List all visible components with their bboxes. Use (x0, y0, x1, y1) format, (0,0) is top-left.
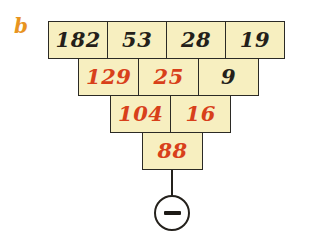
pyramid-cell[interactable]: 9 (198, 58, 260, 96)
pyramid-cell[interactable]: 129 (78, 58, 140, 96)
pyramid-row-2: 129 25 9 (78, 58, 259, 96)
pyramid-cell[interactable]: 53 (107, 21, 168, 59)
pyramid-cell[interactable]: 16 (170, 95, 232, 133)
pyramid-row-3: 104 16 (110, 95, 231, 133)
pyramid-cell[interactable]: 104 (110, 95, 172, 133)
pyramid-row-1: 182 53 28 19 (48, 21, 285, 59)
pyramid-cell[interactable]: 25 (138, 58, 200, 96)
pyramid-cell[interactable]: 19 (225, 21, 286, 59)
pyramid-cell[interactable]: 182 (48, 21, 109, 59)
pyramid-cell[interactable]: 28 (166, 21, 227, 59)
pyramid-cell[interactable]: 88 (142, 132, 203, 170)
minus-sign-icon (164, 211, 181, 216)
connector-line (171, 170, 173, 196)
pyramid-row-4: 88 (142, 132, 203, 170)
operation-circle (154, 195, 190, 231)
subtraction-pyramid: 182 53 28 19 129 25 9 104 16 88 (0, 0, 312, 239)
